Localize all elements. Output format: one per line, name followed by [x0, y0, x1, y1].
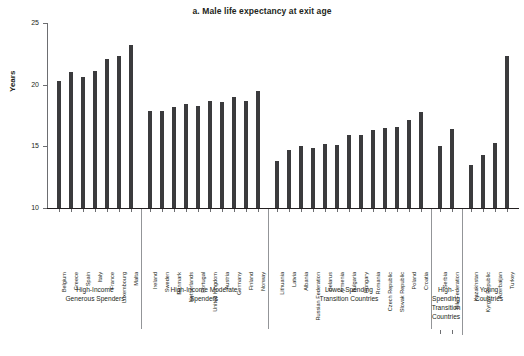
y-tick-label: 15	[19, 142, 39, 149]
x-tick	[246, 209, 247, 212]
x-tick	[337, 209, 338, 212]
category-label: Italy	[97, 272, 103, 282]
bar	[371, 130, 375, 208]
group-label: Lower-SpendingTransition Countries	[289, 285, 409, 303]
bar	[148, 111, 152, 208]
bar	[335, 145, 339, 208]
chart-title: a. Male life expectancy at exit age	[0, 6, 524, 16]
x-tick	[349, 209, 350, 212]
x-tick	[258, 209, 259, 212]
bar	[359, 135, 363, 208]
x-tick	[198, 209, 199, 212]
bar	[299, 146, 303, 208]
bar	[323, 144, 327, 208]
bar	[81, 77, 85, 208]
plot-area: 10152025	[47, 23, 519, 208]
x-tick	[71, 209, 72, 212]
bar	[395, 127, 399, 208]
bar	[419, 112, 423, 208]
bar	[57, 81, 61, 208]
bar	[244, 101, 248, 208]
group-label: High-IncomeGenerous Spenders	[35, 285, 155, 303]
bar	[232, 97, 236, 208]
x-tick	[131, 209, 132, 212]
x-tick	[210, 209, 211, 212]
x-tick	[397, 209, 398, 212]
bar	[129, 45, 133, 208]
bar	[481, 155, 485, 208]
bar	[275, 161, 279, 208]
bar	[196, 106, 200, 208]
x-tick	[373, 209, 374, 212]
x-tick	[95, 209, 96, 212]
bar	[117, 56, 121, 208]
bar	[347, 135, 351, 208]
x-tick	[409, 209, 410, 212]
x-tick	[421, 209, 422, 212]
bar	[256, 91, 260, 208]
bar	[184, 104, 188, 208]
bar	[220, 102, 224, 208]
group-label: High-Income ModerateSpenders	[144, 285, 264, 303]
x-tick	[313, 209, 314, 212]
y-tick	[43, 23, 47, 24]
x-tick	[162, 209, 163, 212]
x-tick	[150, 209, 151, 212]
group-separator	[268, 209, 269, 329]
group-end-tick	[452, 330, 453, 334]
x-tick	[325, 209, 326, 212]
y-tick-label: 25	[19, 19, 39, 26]
x-tick	[107, 209, 108, 212]
x-tick	[385, 209, 386, 212]
bar	[383, 128, 387, 208]
bar	[450, 129, 454, 208]
bar	[160, 111, 164, 208]
y-tick	[43, 146, 47, 147]
y-axis-title: Years	[8, 71, 17, 92]
x-tick	[83, 209, 84, 212]
group-end-tick	[440, 330, 441, 334]
bar	[208, 101, 212, 208]
x-tick	[507, 209, 508, 212]
bar	[105, 59, 109, 208]
y-tick	[43, 85, 47, 86]
y-tick-label: 20	[19, 81, 39, 88]
y-axis-line	[47, 23, 48, 208]
x-tick	[495, 209, 496, 212]
x-tick	[174, 209, 175, 212]
x-axis-line	[47, 208, 519, 209]
bar	[311, 148, 315, 208]
x-tick	[483, 209, 484, 212]
category-label: Malta	[133, 272, 139, 286]
bar	[287, 150, 291, 208]
x-tick	[452, 209, 453, 212]
x-tick	[361, 209, 362, 212]
x-tick	[301, 209, 302, 212]
x-tick	[186, 209, 187, 212]
bar	[93, 71, 97, 208]
x-tick	[289, 209, 290, 212]
x-tick	[119, 209, 120, 212]
bar	[407, 120, 411, 208]
category-label: Lithuania	[279, 272, 285, 295]
y-tick-label: 10	[19, 204, 39, 211]
group-separator	[141, 209, 142, 329]
x-tick	[59, 209, 60, 212]
x-tick	[440, 209, 441, 212]
bar	[469, 165, 473, 208]
category-label: Poland	[411, 272, 417, 289]
x-tick	[471, 209, 472, 212]
x-tick	[234, 209, 235, 212]
bar	[438, 146, 442, 208]
bar	[493, 143, 497, 208]
bar	[69, 72, 73, 208]
bar	[172, 107, 176, 208]
group-label: YoungCountries	[429, 285, 524, 303]
chart-figure: a. Male life expectancy at exit age Year…	[0, 0, 524, 356]
x-tick	[277, 209, 278, 212]
bar	[505, 56, 509, 208]
x-tick	[222, 209, 223, 212]
